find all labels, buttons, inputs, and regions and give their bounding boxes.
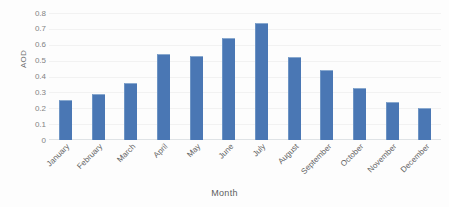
bar bbox=[124, 83, 137, 140]
y-axis-tick-label: 0.7 bbox=[20, 24, 46, 33]
y-axis-tick-label: 0.5 bbox=[20, 56, 46, 65]
x-axis-tick-labels: JanuaryFebruaryMarchAprilMayJuneJulyAugu… bbox=[49, 142, 441, 187]
bar bbox=[418, 108, 431, 140]
y-axis-tick-label: 0.8 bbox=[20, 9, 46, 18]
bars-layer bbox=[49, 13, 441, 140]
y-axis-tick-label: 0.3 bbox=[20, 88, 46, 97]
aod-monthly-bar-chart: AOD 0.80.70.60.50.40.30.20.10 JanuaryFeb… bbox=[0, 0, 449, 207]
y-axis-tick-label: 0.1 bbox=[20, 120, 46, 129]
bar bbox=[288, 57, 301, 140]
bar bbox=[222, 38, 235, 140]
bar bbox=[190, 56, 203, 140]
bar bbox=[320, 70, 333, 140]
y-axis-tick-label: 0.2 bbox=[20, 104, 46, 113]
bar bbox=[353, 88, 366, 140]
bar bbox=[157, 54, 170, 140]
y-axis-tick-label: 0.6 bbox=[20, 40, 46, 49]
y-axis-tick-label: 0.4 bbox=[20, 72, 46, 81]
bar bbox=[59, 100, 72, 140]
bar bbox=[92, 94, 105, 140]
x-axis-title: Month bbox=[0, 188, 449, 198]
bar bbox=[386, 102, 399, 140]
bar bbox=[255, 23, 268, 140]
y-axis-tick-label: 0 bbox=[20, 136, 46, 145]
